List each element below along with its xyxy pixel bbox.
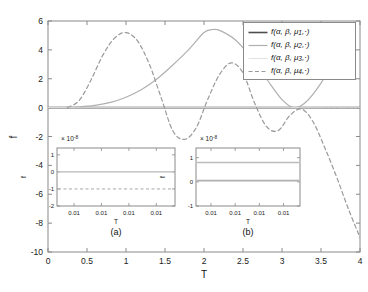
legend-item: f(α, β, μ4,·)	[244, 65, 355, 78]
inset-exponent-base: × 10	[61, 135, 74, 142]
legend-label-subscript: 4	[298, 68, 302, 75]
inset-y-axis-title: f	[21, 176, 28, 178]
y-tick-label: 6	[6, 17, 43, 26]
figure-root: 00.511.522.533.546420-2-4-6-8-10Tf10-1-2…	[0, 0, 368, 292]
x-axis-title: T	[201, 270, 207, 280]
legend: f(α, β, μ1,·)f(α, β, μ2,·)f(α, β, μ3,·)f…	[243, 22, 356, 80]
legend-line-sample	[248, 42, 268, 49]
inset-b-layer	[196, 148, 300, 206]
inset-x-axis-title: T	[114, 219, 118, 226]
x-tick-label: 2.5	[237, 257, 249, 266]
x-tick-label: 0	[46, 257, 51, 266]
legend-label-subscript: 1	[298, 29, 302, 36]
legend-item-label: f(α, β, μ4,·)	[271, 67, 309, 76]
inset-y-tick-label: -2	[31, 203, 54, 209]
inset-caption: (a)	[111, 228, 122, 237]
inset-x-tick-label: 0.01	[123, 210, 135, 216]
legend-line-sample	[248, 68, 268, 75]
inset-y-tick-label: -1	[170, 203, 193, 209]
inset-exponent-label: × 10-8	[61, 136, 78, 143]
x-tick-label: 4	[358, 257, 363, 266]
inset-y-tick-label: 1	[170, 155, 193, 161]
inset-y-axis-title: f	[160, 176, 167, 178]
inset-x-tick-label: 0.01	[205, 210, 217, 216]
inset-frame	[57, 148, 175, 206]
legend-item: f(α, β, μ3,·)	[244, 52, 355, 65]
inset-exponent-base: × 10	[200, 135, 213, 142]
inset-x-tick-label: 0.01	[229, 210, 241, 216]
legend-item-label: f(α, β, μ3,·)	[271, 54, 309, 63]
legend-item-label: f(α, β, μ2,·)	[271, 41, 309, 50]
y-tick-label: 0	[6, 103, 43, 112]
inset-x-tick-label: 0.01	[278, 210, 290, 216]
x-tick-label: 0.5	[81, 257, 93, 266]
inset-y-tick-label: 0	[31, 169, 54, 175]
x-tick-label: 1	[124, 257, 129, 266]
inset-y-tick-label: -1	[31, 186, 54, 192]
inset-exponent-label: × 10-8	[200, 136, 217, 143]
x-tick-label: 1.5	[159, 257, 171, 266]
y-tick-label: -10	[6, 248, 43, 257]
inset-x-tick-label: 0.01	[254, 210, 266, 216]
inset-exponent-power: -8	[213, 135, 217, 140]
legend-label-subscript: 3	[298, 55, 302, 62]
x-tick-label: 3.5	[315, 257, 327, 266]
inset-x-tick-label: 0.01	[96, 210, 108, 216]
legend-label-subscript: 2	[298, 42, 302, 49]
legend-line-sample	[248, 55, 268, 62]
inset-y-tick-label: 1	[31, 152, 54, 158]
y-tick-label: 2	[6, 75, 43, 84]
legend-item: f(α, β, μ1,·)	[244, 26, 355, 39]
inset-x-axis-title: T	[246, 219, 250, 226]
legend-line-sample	[248, 29, 268, 36]
y-tick-label: -8	[6, 219, 43, 228]
x-tick-label: 3	[280, 257, 285, 266]
inset-y-tick-label: 0	[170, 179, 193, 185]
inset-x-tick-label: 0.01	[150, 210, 162, 216]
y-tick-label: 4	[6, 46, 43, 55]
inset-exponent-power: -8	[74, 135, 78, 140]
legend-item: f(α, β, μ2,·)	[244, 39, 355, 52]
inset-frame	[196, 148, 300, 206]
y-axis-title: f	[9, 135, 19, 138]
inset-caption: (b)	[243, 228, 254, 237]
inset-a-layer	[57, 148, 175, 206]
x-tick-label: 2	[202, 257, 207, 266]
inset-x-tick-label: 0.01	[68, 210, 80, 216]
legend-item-label: f(α, β, μ1,·)	[271, 28, 309, 37]
